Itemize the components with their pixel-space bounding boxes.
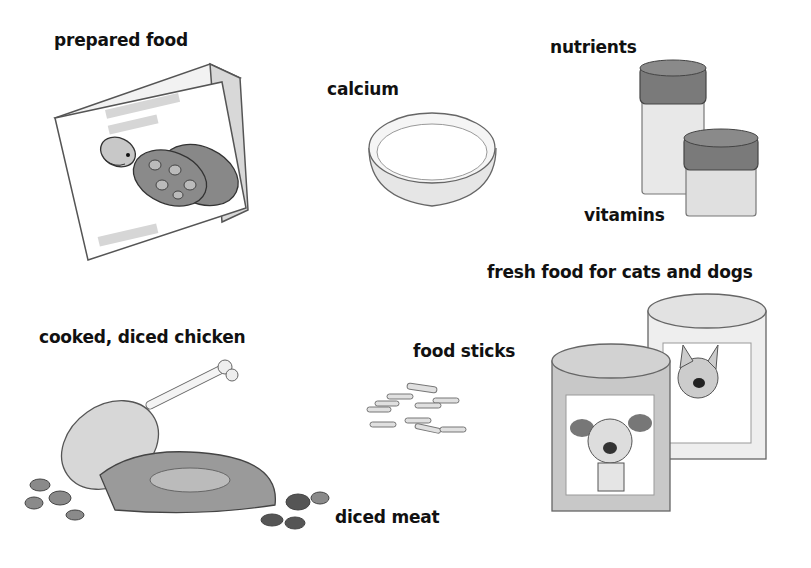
chicken-and-meat-illustration (20, 355, 340, 525)
food-sticks-illustration (365, 382, 475, 442)
calcium-dish-illustration (366, 108, 500, 214)
nutrient-jars-illustration (638, 58, 763, 220)
label-nutrients: nutrients (550, 37, 637, 57)
label-prepared-food: prepared food (54, 30, 188, 50)
label-calcium: calcium (327, 79, 399, 99)
label-chicken: cooked, diced chicken (39, 327, 245, 347)
label-food-sticks: food sticks (413, 341, 515, 361)
prepared-food-box-illustration (50, 60, 250, 270)
label-fresh-food: fresh food for cats and dogs (487, 262, 753, 282)
label-diced-meat: diced meat (335, 507, 440, 527)
pet-food-cans-illustration (548, 283, 768, 523)
